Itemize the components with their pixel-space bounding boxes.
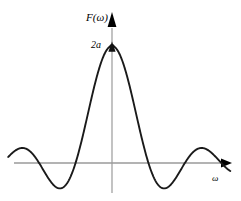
peak-point-marker (109, 44, 114, 49)
y-axis-label: F(ω) (86, 12, 108, 23)
sinc-curve (8, 46, 230, 188)
up-arrowhead-icon (108, 12, 117, 27)
x-axis-label: ω (212, 174, 218, 183)
right-arrowhead-icon (221, 158, 232, 167)
plot-canvas (0, 0, 241, 201)
sinc-spectrum-figure: F(ω) 2a ω (0, 0, 241, 201)
peak-value-label: 2a (91, 40, 101, 50)
